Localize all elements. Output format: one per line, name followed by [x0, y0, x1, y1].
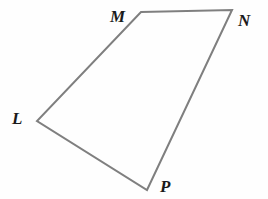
quadrilateral-shape	[0, 0, 268, 199]
geometry-figure: M N P L	[0, 0, 268, 199]
vertex-label-p: P	[160, 178, 170, 195]
vertex-label-m: M	[110, 8, 125, 25]
vertex-label-l: L	[12, 110, 22, 127]
vertex-label-n: N	[238, 12, 250, 29]
quadrilateral-outline	[37, 10, 232, 190]
